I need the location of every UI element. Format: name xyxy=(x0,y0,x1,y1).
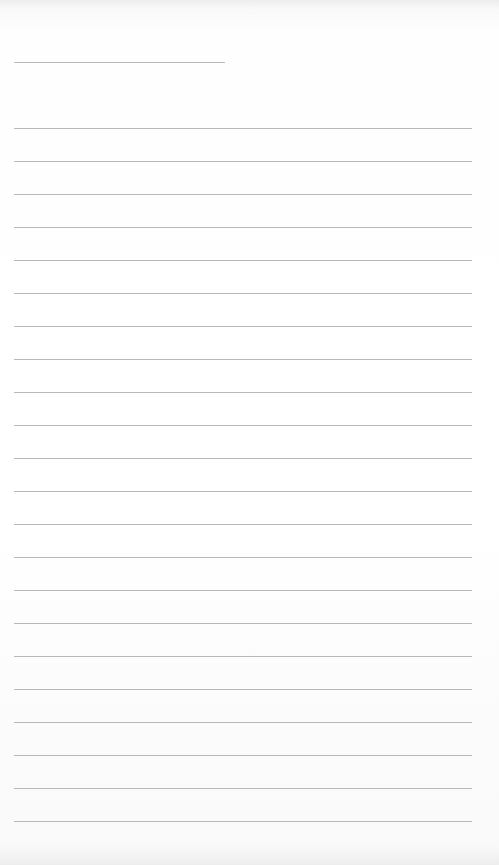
ruled-line xyxy=(14,458,472,459)
ruled-line xyxy=(14,425,472,426)
ruled-line xyxy=(14,194,472,195)
ruled-line xyxy=(14,392,472,393)
ruled-line xyxy=(14,359,472,360)
ruled-line xyxy=(14,788,472,789)
bleed-through-text xyxy=(0,0,499,10)
ruled-line xyxy=(14,623,472,624)
ruled-line xyxy=(14,656,472,657)
ruled-line xyxy=(14,590,472,591)
paper-page xyxy=(0,0,499,865)
ruled-line xyxy=(14,557,472,558)
ruled-line xyxy=(14,689,472,690)
ruled-line xyxy=(14,524,472,525)
ruled-line xyxy=(14,491,472,492)
ruled-line xyxy=(14,821,472,822)
ruled-line xyxy=(14,227,472,228)
name-line xyxy=(14,62,225,63)
ruled-line xyxy=(14,293,472,294)
ruled-line xyxy=(14,722,472,723)
ruled-line xyxy=(14,161,472,162)
ruled-line xyxy=(14,260,472,261)
ruled-line xyxy=(14,755,472,756)
page-edge-shadow xyxy=(0,845,499,865)
ruled-line xyxy=(14,326,472,327)
ruled-line xyxy=(14,128,472,129)
